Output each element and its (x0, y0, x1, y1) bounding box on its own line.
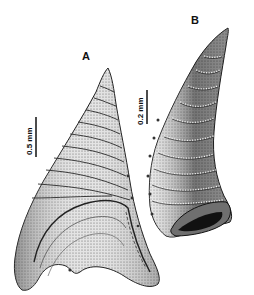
panel-label-b: B (191, 14, 199, 26)
specimen-b (147, 28, 232, 237)
scale-label-b: 0.2 mm (136, 97, 145, 125)
panel-label-a: A (82, 50, 90, 62)
illustration-canvas (0, 0, 254, 295)
scale-label-a: 0.5 mm (25, 127, 34, 155)
specimen-figure: A B 0.5 mm 0.2 mm (0, 0, 254, 295)
